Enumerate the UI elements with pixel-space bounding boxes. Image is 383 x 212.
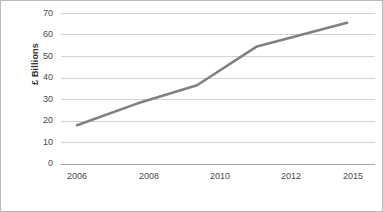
- x-axis-line: [61, 164, 375, 165]
- x-tick-2015: 2015: [323, 171, 383, 181]
- y-tick-20: 20: [1, 116, 53, 125]
- gridline-40: [61, 78, 375, 79]
- gridline-60: [61, 34, 375, 35]
- y-axis-label: £ Billions: [30, 29, 40, 99]
- gridline-10: [61, 142, 375, 143]
- y-tick-40: 40: [1, 73, 53, 82]
- y-tick-10: 10: [1, 138, 53, 147]
- y-tick-50: 50: [1, 52, 53, 61]
- plot-area: [61, 13, 375, 164]
- x-tick-2012: 2012: [261, 171, 321, 181]
- gridline-70: [61, 13, 375, 14]
- x-tick-2010: 2010: [190, 171, 250, 181]
- x-tick-2006: 2006: [47, 171, 107, 181]
- line-chart: £ Billions 70 60 50 40 30 20 10 0 2006 2…: [0, 0, 383, 212]
- x-tick-2008: 2008: [119, 171, 179, 181]
- y-tick-0: 0: [1, 159, 53, 168]
- y-tick-70: 70: [1, 9, 53, 18]
- gridline-50: [61, 56, 375, 57]
- y-tick-30: 30: [1, 95, 53, 104]
- gridline-20: [61, 121, 375, 122]
- y-tick-60: 60: [1, 30, 53, 39]
- gridline-30: [61, 99, 375, 100]
